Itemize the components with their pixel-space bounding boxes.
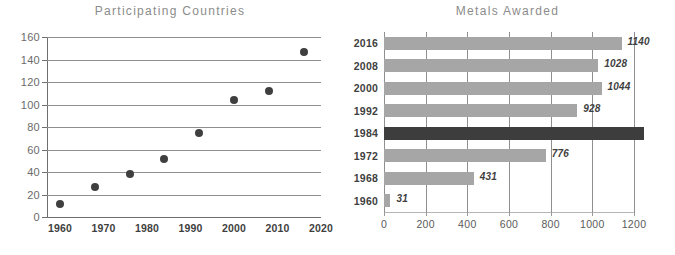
scatter-y-tick-label: 120	[2, 76, 40, 88]
bar-category-label: 2008	[342, 60, 378, 72]
scatter-plot-area	[47, 37, 321, 217]
bar-value-label: 31	[396, 193, 408, 204]
bar	[384, 82, 602, 95]
bar-row: 1044	[384, 77, 634, 100]
scatter-x-tick-label: 2020	[309, 222, 333, 234]
bar-value-label: 776	[552, 148, 569, 159]
scatter-data-point	[265, 87, 273, 95]
bar-x-tick-label: 200	[416, 218, 434, 230]
bar-x-tick-label: 1000	[580, 218, 605, 230]
scatter-data-point	[195, 129, 203, 137]
scatter-x-tick-label: 1960	[48, 222, 72, 234]
scatter-y-tick-label: 40	[2, 166, 40, 178]
bar-category-label: 1968	[342, 172, 378, 184]
scatter-gridline	[47, 150, 321, 151]
scatter-gridline	[47, 37, 321, 38]
bar	[384, 194, 390, 207]
bar-gridline	[634, 32, 635, 212]
bar-x-tick-mark	[467, 212, 468, 216]
scatter-y-tick-mark	[42, 172, 47, 173]
right-chart-title: Metals Awarded	[340, 4, 675, 18]
bar-plot-area: 11401028104492877643131	[384, 32, 634, 212]
scatter-x-tick-label: 1970	[91, 222, 115, 234]
bar-x-tick-mark	[551, 212, 552, 216]
bar-x-tick-label: 800	[541, 218, 559, 230]
scatter-data-point	[56, 200, 64, 208]
bar-row: 1140	[384, 32, 634, 55]
scatter-data-point	[126, 170, 134, 178]
scatter-y-tick-label: 20	[2, 189, 40, 201]
metals-awarded-chart: Metals Awarded 11401028104492877643131 2…	[340, 0, 675, 255]
scatter-x-tick-label: 2010	[265, 222, 289, 234]
bar-category-label: 1972	[342, 150, 378, 162]
scatter-data-point	[160, 155, 168, 163]
bar-value-label: 1028	[604, 58, 627, 69]
bar	[384, 59, 598, 72]
bar-x-tick-label: 600	[500, 218, 518, 230]
scatter-y-tick-mark	[42, 150, 47, 151]
dual-chart-figure: Participating Countries 0204060801001201…	[0, 0, 675, 255]
scatter-y-tick-label: 60	[2, 144, 40, 156]
scatter-gridline	[47, 172, 321, 173]
bar-row: 776	[384, 145, 634, 168]
bar-category-label: 2000	[342, 82, 378, 94]
bar-category-label: 1992	[342, 105, 378, 117]
scatter-y-tick-label: 160	[2, 31, 40, 43]
scatter-y-tick-mark	[42, 127, 47, 128]
scatter-data-point	[230, 96, 238, 104]
bar-category-label: 1984	[342, 127, 378, 139]
scatter-y-tick-mark	[42, 37, 47, 38]
bar	[384, 37, 622, 50]
scatter-y-tick-label: 100	[2, 99, 40, 111]
bar-x-tick-mark	[592, 212, 593, 216]
bar-row: 431	[384, 167, 634, 190]
bar-value-label: 1044	[608, 81, 631, 92]
bar-category-label: 1960	[342, 195, 378, 207]
scatter-y-tick-label: 80	[2, 121, 40, 133]
bar-row	[384, 122, 634, 145]
bar-category-label: 2016	[342, 37, 378, 49]
scatter-data-point	[300, 48, 308, 56]
scatter-x-tick-label: 1990	[178, 222, 202, 234]
bar-row: 31	[384, 190, 634, 213]
left-chart-title: Participating Countries	[0, 4, 340, 18]
bar-x-tick-mark	[426, 212, 427, 216]
scatter-y-tick-mark	[42, 105, 47, 106]
bar-x-tick-label: 1200	[622, 218, 647, 230]
bar-value-label: 1140	[628, 36, 650, 47]
bar-row: 928	[384, 100, 634, 123]
bar-x-tick-label: 400	[458, 218, 476, 230]
scatter-y-tick-label: 0	[2, 211, 40, 223]
bar-value-label: 928	[583, 103, 600, 114]
scatter-y-tick-label: 140	[2, 54, 40, 66]
bar-row: 1028	[384, 55, 634, 78]
scatter-y-tick-mark	[42, 82, 47, 83]
scatter-gridline	[47, 195, 321, 196]
scatter-gridline	[47, 82, 321, 83]
scatter-gridline	[47, 127, 321, 128]
bar-x-tick-mark	[384, 212, 385, 216]
bar-x-tick-mark	[634, 212, 635, 216]
scatter-y-tick-mark	[42, 195, 47, 196]
scatter-y-tick-mark	[42, 60, 47, 61]
bar-highlighted	[384, 127, 644, 140]
bar	[384, 104, 577, 117]
scatter-gridline	[47, 60, 321, 61]
bar-x-tick-mark	[509, 212, 510, 216]
scatter-x-axis-line	[47, 217, 321, 218]
scatter-data-point	[91, 183, 99, 191]
participating-countries-chart: Participating Countries 0204060801001201…	[0, 0, 340, 255]
bar-value-label: 431	[480, 171, 497, 182]
scatter-gridline	[47, 105, 321, 106]
scatter-y-tick-mark	[42, 217, 47, 218]
bar	[384, 149, 546, 162]
scatter-x-tick-label: 1980	[135, 222, 159, 234]
bar	[384, 172, 474, 185]
scatter-x-tick-label: 2000	[222, 222, 246, 234]
bar-x-tick-label: 0	[381, 218, 387, 230]
